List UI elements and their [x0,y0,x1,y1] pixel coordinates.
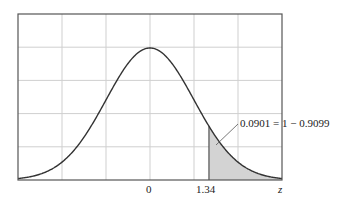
grid-lines [18,14,282,180]
annotation-leader-line [216,124,238,145]
area-annotation: 0.0901 = 1 − 0.9099 [240,117,329,129]
normal-curve-chart [0,0,344,206]
shaded-tail-area [209,126,282,180]
tick-label-zero: 0 [146,183,152,195]
tick-label-z-value: 1.34 [196,183,215,195]
axis-label-z: z [278,183,282,195]
